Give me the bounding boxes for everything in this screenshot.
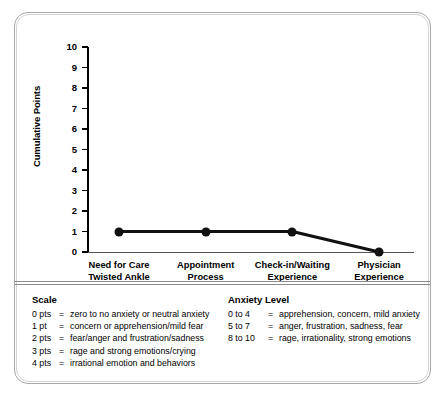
legend-scale-rows: 0 pts=zero to no anxiety or neutral anxi… — [32, 308, 232, 370]
data-point — [201, 227, 210, 236]
legend-row: 1 pt=concern or apprehension/mild fear — [32, 320, 232, 332]
legend-column-scale: Scale 0 pts=zero to no anxiety or neutra… — [32, 294, 232, 370]
legend-row: 0 pts=zero to no anxiety or neutral anxi… — [32, 308, 232, 320]
legend-row: 5 to 7=anger, frustration, sadness, fear — [228, 320, 428, 332]
legend-row-description: rage, irrationality, strong emotions — [279, 332, 428, 344]
legend-row-key: 0 to 4 — [228, 308, 268, 320]
legend-row: 8 to 10=rage, irrationality, strong emot… — [228, 332, 428, 344]
data-point — [375, 248, 384, 257]
legend-row-key: 5 to 7 — [228, 320, 268, 332]
legend-row-key: 1 pt — [32, 320, 59, 332]
legend-row-equals: = — [59, 357, 70, 369]
legend-row-equals: = — [59, 332, 70, 344]
legend-row-description: rage and strong emotions/crying — [70, 345, 232, 357]
legend-row: 4 pts=irrational emotion and behaviors — [32, 357, 232, 369]
legend-row: 0 to 4=apprehension, concern, mild anxie… — [228, 308, 428, 320]
legend-row-description: anger, frustration, sadness, fear — [279, 320, 428, 332]
legend-row-key: 2 pts — [32, 332, 59, 344]
legend-scale-title: Scale — [32, 294, 232, 305]
divider-rule-top — [15, 281, 430, 282]
legend-row-description: apprehension, concern, mild anxiety — [279, 308, 428, 320]
chart-panel: Cumulative Points 109876543210 Need for … — [15, 13, 430, 281]
legend-row: 2 pts=fear/anger and frustration/sadness — [32, 332, 232, 344]
legend-row-key: 4 pts — [32, 357, 59, 369]
legend-row-description: irrational emotion and behaviors — [70, 357, 232, 369]
data-point — [288, 227, 297, 236]
figure-container: Cumulative Points 109876543210 Need for … — [14, 12, 431, 384]
series-line — [15, 13, 430, 281]
plot-area: 109876543210 Need for CareTwisted AnkleA… — [15, 13, 430, 281]
legend-anxiety-rows: 0 to 4=apprehension, concern, mild anxie… — [228, 308, 428, 345]
legend-row: 3 pts=rage and strong emotions/crying — [32, 345, 232, 357]
legend-row-equals: = — [268, 320, 279, 332]
legend-row-equals: = — [59, 320, 70, 332]
legend-row-key: 3 pts — [32, 345, 59, 357]
legend-row-description: zero to no anxiety or neutral anxiety — [70, 308, 232, 320]
legend-row-description: concern or apprehension/mild fear — [70, 320, 232, 332]
legend-panel: Scale 0 pts=zero to no anxiety or neutra… — [15, 285, 430, 383]
legend-row-equals: = — [59, 345, 70, 357]
legend-row-equals: = — [59, 308, 70, 320]
legend-row-equals: = — [268, 308, 279, 320]
legend-row-key: 8 to 10 — [228, 332, 268, 344]
legend-column-anxiety: Anxiety Level 0 to 4=apprehension, conce… — [228, 294, 428, 345]
legend-row-key: 0 pts — [32, 308, 59, 320]
legend-anxiety-title: Anxiety Level — [228, 294, 428, 305]
data-point — [115, 227, 124, 236]
legend-row-description: fear/anger and frustration/sadness — [70, 332, 232, 344]
legend-row-equals: = — [268, 332, 279, 344]
